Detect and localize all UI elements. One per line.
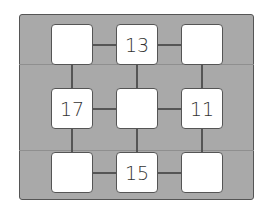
connector (93, 172, 116, 174)
connector (158, 44, 181, 46)
grid-cell[interactable]: 17 (51, 88, 93, 129)
connector (201, 65, 203, 88)
grid-cell[interactable] (181, 152, 223, 193)
grid-cell[interactable]: 11 (181, 88, 223, 129)
grid-cell[interactable]: 15 (116, 152, 158, 193)
grid-cell[interactable] (116, 88, 158, 129)
connector (71, 129, 73, 152)
connector (71, 65, 73, 88)
connector (201, 129, 203, 152)
grid-cell[interactable] (51, 24, 93, 65)
grid-cell[interactable]: 13 (116, 24, 158, 65)
grid-cell[interactable] (181, 24, 223, 65)
connector (136, 65, 138, 88)
connector (158, 172, 181, 174)
connector (93, 108, 116, 110)
grid-cell[interactable] (51, 152, 93, 193)
connector (136, 129, 138, 152)
connector (93, 44, 116, 46)
connector (158, 108, 181, 110)
